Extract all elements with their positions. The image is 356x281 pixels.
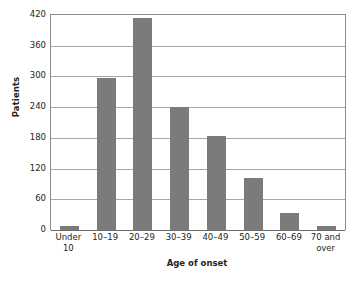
bar-slot: [272, 15, 309, 230]
x-tick-label-line1: 20–29: [129, 232, 155, 242]
y-tick-label: 360: [20, 40, 46, 49]
bar[interactable]: [244, 178, 263, 230]
y-tick-label: 120: [20, 163, 46, 172]
bar-series: [51, 15, 345, 230]
bar-chart: Patients 060120180240300360420 Under1010…: [0, 0, 356, 281]
bar-slot: [308, 15, 345, 230]
bar[interactable]: [60, 226, 79, 230]
x-tick-label-line1: Under: [56, 232, 82, 242]
x-axis-tick-labels: Under1010–1920–2930–3940–4950–5960–6970 …: [50, 232, 344, 253]
x-tick-label-line1: 50–59: [239, 232, 265, 242]
x-tick-label-line1: 70 and: [311, 232, 341, 242]
x-tick-label: 60–69: [271, 232, 308, 253]
x-tick-label-line2: over: [307, 243, 344, 254]
bar[interactable]: [317, 226, 336, 230]
bar-slot: [51, 15, 88, 230]
axis-baseline: [51, 230, 345, 231]
bar-slot: [88, 15, 125, 230]
bar-slot: [235, 15, 272, 230]
plot-area: [50, 14, 346, 230]
bar-slot: [125, 15, 162, 230]
bar-slot: [198, 15, 235, 230]
y-tick-label: 420: [20, 10, 46, 19]
x-axis-title: Age of onset: [50, 258, 344, 268]
x-tick-label: 50–59: [234, 232, 271, 253]
x-tick-label: 30–39: [160, 232, 197, 253]
x-tick-label-line1: 10–19: [92, 232, 118, 242]
x-tick-label: 20–29: [124, 232, 161, 253]
x-tick-label: 40–49: [197, 232, 234, 253]
bar[interactable]: [280, 213, 299, 230]
bar[interactable]: [133, 18, 152, 230]
y-tick-label: 0: [20, 225, 46, 234]
bar[interactable]: [97, 78, 116, 230]
x-tick-label-line1: 30–39: [166, 232, 192, 242]
y-tick-label: 180: [20, 133, 46, 142]
x-tick-label-line1: 40–49: [202, 232, 228, 242]
x-tick-label: Under10: [50, 232, 87, 253]
bar-slot: [161, 15, 198, 230]
x-tick-label: 10–19: [87, 232, 124, 253]
bar[interactable]: [170, 107, 189, 230]
x-tick-label-line2: 10: [50, 243, 87, 254]
y-tick-label: 300: [20, 71, 46, 80]
y-tick-label: 60: [20, 194, 46, 203]
y-axis-tick-labels: 060120180240300360420: [20, 14, 46, 229]
bar[interactable]: [207, 136, 226, 230]
x-tick-label-line1: 60–69: [276, 232, 302, 242]
y-tick-label: 240: [20, 102, 46, 111]
x-tick-label: 70 andover: [307, 232, 344, 253]
